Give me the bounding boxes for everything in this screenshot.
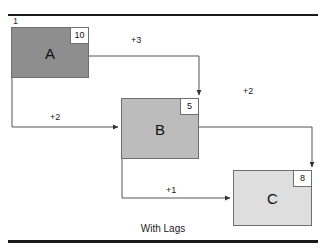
edge-label-b-c-bottom: +1 bbox=[166, 186, 176, 195]
task-node-b-duration-badge: 5 bbox=[180, 98, 199, 115]
task-node-b[interactable]: B 5 bbox=[121, 98, 199, 159]
edge-label-a-b-top: +3 bbox=[131, 36, 141, 45]
task-node-a[interactable]: A 10 bbox=[11, 27, 89, 78]
figure-caption: With Lags bbox=[0, 224, 326, 234]
connector-a-b-top bbox=[89, 56, 199, 95]
task-node-c-duration-badge: 8 bbox=[293, 170, 312, 187]
edge-label-a-b-bottom: +2 bbox=[50, 113, 60, 122]
bottom-divider-rule bbox=[8, 240, 318, 243]
edge-label-b-c-top: +2 bbox=[243, 87, 253, 96]
figure-with-lags: 1 A 10 B 5 C 8 +3 +2 +2 +1 With Lags bbox=[0, 0, 326, 251]
task-node-c-label: C bbox=[234, 191, 311, 206]
task-node-b-label: B bbox=[122, 121, 198, 136]
task-node-a-duration-badge: 10 bbox=[70, 27, 89, 44]
connector-b-c-top bbox=[199, 127, 312, 167]
task-node-a-label: A bbox=[12, 45, 88, 60]
task-node-c[interactable]: C 8 bbox=[233, 170, 312, 226]
connector-a-b-bottom bbox=[12, 78, 118, 127]
